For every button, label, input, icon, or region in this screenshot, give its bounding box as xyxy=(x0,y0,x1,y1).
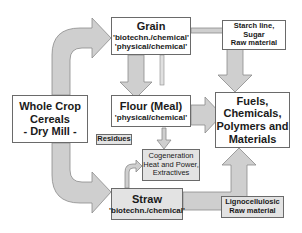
node-products: Fuels, Chemicals, Polymers and Materials xyxy=(215,92,290,148)
whole-crop-line2: Cereals xyxy=(30,113,70,126)
whole-crop-line3: - Dry Mill - xyxy=(23,125,76,138)
node-whole-crop-cereals: Whole Crop Cereals - Dry Mill - xyxy=(12,95,88,143)
cogeneration-line3: Extractives xyxy=(153,169,190,178)
flour-line1: 'physical/chemical' xyxy=(115,113,187,122)
products-line1: Fuels, xyxy=(237,95,269,108)
note-lignocellulosic: Lignocellulosic Raw material xyxy=(221,196,284,218)
grain-line2: 'physical/chemical' xyxy=(115,42,187,51)
flour-title: Flour (Meal) xyxy=(120,100,182,113)
node-flour: Flour (Meal) 'physical/chemical' xyxy=(111,95,191,127)
products-line4: Materials xyxy=(229,133,277,146)
arrow-wholecrop-to-straw xyxy=(52,143,111,213)
note-starch-line: Starch line, Sugar Raw material xyxy=(222,20,286,50)
products-line2: Chemicals, xyxy=(223,107,281,120)
straw-line1: 'biotechn./chemical' xyxy=(109,206,185,215)
whole-crop-line1: Whole Crop xyxy=(19,100,81,113)
label-residues: Residues xyxy=(96,134,132,145)
arrow-grain-to-flour xyxy=(120,55,152,98)
products-line3: Polymers and xyxy=(216,120,288,133)
node-cogeneration: Cogeneration Heat and Power, Extractives xyxy=(142,149,200,181)
line-grain-to-cogeneration xyxy=(160,55,164,85)
arrow-flour-to-cogeneration xyxy=(157,128,171,149)
grain-title: Grain xyxy=(137,20,166,33)
starch-line3: Raw material xyxy=(231,39,277,48)
arrow-wholecrop-to-grain xyxy=(52,18,111,95)
ligno-line2: Raw material xyxy=(229,207,275,216)
node-grain: Grain 'biotechn./chemical' 'physical/che… xyxy=(111,17,191,55)
residues-label: Residues xyxy=(97,135,130,144)
node-straw: Straw 'biotechn./chemical' xyxy=(111,188,183,220)
grain-line1: 'biotechn./chemical' xyxy=(113,33,189,42)
straw-title: Straw xyxy=(132,193,162,206)
arrow-straw-to-cogeneration xyxy=(125,160,142,188)
